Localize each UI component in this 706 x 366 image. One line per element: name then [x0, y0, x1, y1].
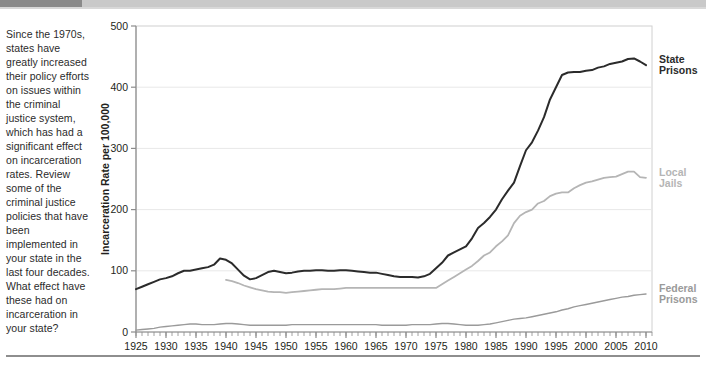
series-label-federal-prisons: FederalPrisons: [659, 282, 698, 305]
y-tick-label-400: 400: [110, 81, 128, 93]
series-label-line: Prisons: [659, 293, 698, 305]
x-tick-label-1965: 1965: [364, 340, 388, 352]
x-tick-label-2010: 2010: [634, 340, 658, 352]
y-tick-label-100: 100: [110, 264, 128, 276]
x-tick-label-1940: 1940: [214, 340, 238, 352]
x-tick-label-1950: 1950: [274, 340, 298, 352]
x-tick-label-1930: 1930: [154, 340, 178, 352]
x-tick-label-1980: 1980: [454, 340, 478, 352]
y-tick-label-300: 300: [110, 142, 128, 154]
series-legend-group: StatePrisonsLocalJailsFederalPrisons: [659, 53, 698, 305]
x-axis-ticks: 1925193019351940194519501955196019651970…: [124, 332, 658, 352]
x-tick-label-1925: 1925: [124, 340, 148, 352]
series-label-local-jails: LocalJails: [659, 166, 687, 189]
x-tick-label-1995: 1995: [544, 340, 568, 352]
header-accent-bar-light: [82, 0, 706, 7]
x-tick-label-2005: 2005: [604, 340, 628, 352]
y-axis-ticks: 0100200300400500: [110, 20, 136, 338]
x-tick-label-1945: 1945: [244, 340, 268, 352]
x-tick-label-1970: 1970: [394, 340, 418, 352]
x-tick-label-1990: 1990: [514, 340, 538, 352]
incarceration-rate-chart: 0100200300400500 Incarceration Rate per …: [98, 14, 698, 352]
y-tick-label-0: 0: [122, 326, 128, 338]
y-tick-label-500: 500: [110, 20, 128, 32]
y-axis-title: Incarceration Rate per 100,000: [99, 103, 111, 255]
x-tick-label-1960: 1960: [334, 340, 358, 352]
x-tick-label-2000: 2000: [574, 340, 598, 352]
x-tick-label-1935: 1935: [184, 340, 208, 352]
header-divider-rule: [0, 7, 706, 9]
x-tick-label-1955: 1955: [304, 340, 328, 352]
x-tick-label-1985: 1985: [484, 340, 508, 352]
series-label-line: Prisons: [659, 64, 698, 76]
intro-paragraph: Since the 1970s, states have greatly inc…: [6, 27, 92, 336]
y-tick-label-200: 200: [110, 203, 128, 215]
x-tick-label-1975: 1975: [424, 340, 448, 352]
chart-canvas: 0100200300400500 Incarceration Rate per …: [98, 14, 698, 352]
footer-divider-rule: [6, 355, 700, 357]
series-label-state-prisons: StatePrisons: [659, 53, 698, 76]
series-label-line: Jails: [659, 177, 683, 189]
header-accent-bar-dark: [0, 0, 82, 7]
